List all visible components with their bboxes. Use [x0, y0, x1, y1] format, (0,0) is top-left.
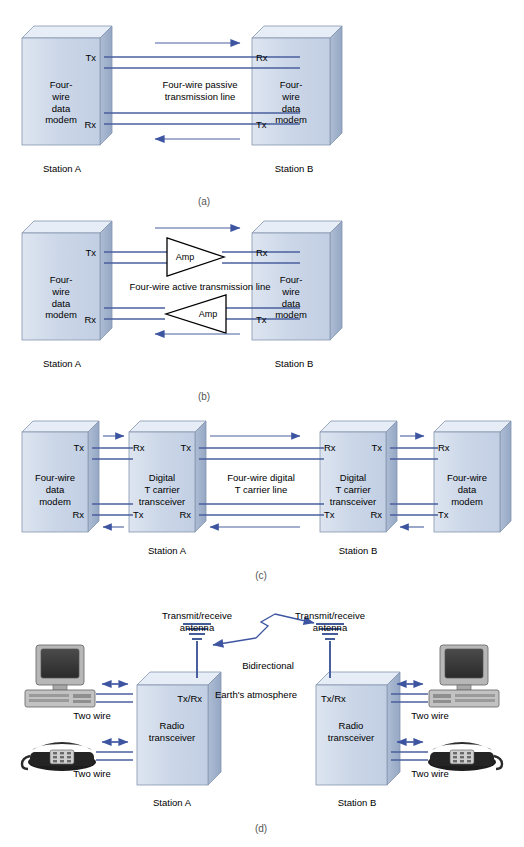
panel-c-box2-port-tx: Tx: [180, 442, 191, 454]
panel-c-box3-label: Digital T carrier transceiver: [330, 472, 376, 507]
panel-b-amplifier-bottom-label: Amp: [199, 309, 218, 321]
panel-d-wire-label-3: Two wire: [411, 710, 448, 722]
panel-a-right-port-rx: Rx: [256, 52, 268, 64]
panel-d-atmosphere-label: Earth's atmosphere: [215, 689, 297, 701]
panel-c-box2-port-tx-b: Tx: [133, 509, 144, 521]
panel-b-caption: (b): [184, 391, 224, 402]
panel-d-antenna-label-left: Transmit/receive antenna: [162, 610, 232, 633]
panel-c-box2-port-rx-b: Rx: [179, 509, 191, 521]
panel-d-wire-label-4: Two wire: [411, 768, 448, 780]
figure-canvas: Four- wire data modem Four- wire data mo…: [0, 0, 524, 847]
panel-c-box3-port-tx: Tx: [371, 442, 382, 454]
panel-c-box1-port-tx: Tx: [73, 442, 84, 454]
panel-c-box3-port-tx-b: Tx: [324, 509, 335, 521]
panel-b-right-port-tx: Tx: [256, 314, 267, 326]
panel-c-box1-label: Four-wire data modem: [35, 472, 75, 507]
panel-c-box2-port-rx: Rx: [133, 442, 145, 454]
panel-a-caption: (a): [184, 196, 224, 207]
panel-c-station-a: Station A: [148, 545, 186, 556]
panel-c-caption: (c): [241, 570, 281, 581]
panel-b-station-a: Station A: [43, 358, 81, 369]
panel-c-box3-port-rx-b: Rx: [370, 509, 382, 521]
panel-d-wires-left-computer: [96, 694, 133, 702]
panel-d-caption: (d): [241, 823, 281, 834]
panel-b-station-b: Station B: [275, 358, 314, 369]
panel-a-left-port-tx: Tx: [85, 52, 96, 64]
panel-a-right-box-label: Four- wire data modem: [275, 79, 307, 126]
panel-d-wire-label-1: Two wire: [73, 710, 110, 722]
panel-b-left-box-label: Four- wire data modem: [45, 274, 77, 321]
panel-c-box4-label: Four-wire data modem: [447, 472, 487, 507]
panel-d-station-a: Station A: [153, 797, 191, 808]
panel-b-left-port-tx: Tx: [85, 247, 96, 259]
bidirectional-arrow-left: [213, 638, 256, 645]
panel-b-amplifier-top-label: Amp: [176, 252, 195, 264]
panel-a-left-box-label: Four- wire data modem: [45, 79, 77, 126]
panel-d-wire-label-2: Two wire: [73, 768, 110, 780]
panel-b-left-port-rx: Rx: [84, 314, 96, 326]
panel-b-center-label: Four-wire active transmission line: [130, 281, 271, 293]
computer-right-icon: [429, 645, 499, 707]
panel-c-station-b: Station B: [339, 545, 378, 556]
panel-d-station-b: Station B: [338, 797, 377, 808]
panel-c-box1-port-rx: Rx: [72, 509, 84, 521]
panel-c-box4-port-rx: Rx: [438, 442, 450, 454]
panel-c-box2-label: Digital T carrier transceiver: [139, 472, 185, 507]
bidirectional-link: [256, 614, 275, 638]
panel-a-left-port-rx: Rx: [84, 119, 96, 131]
panel-a-right-port-tx: Tx: [256, 119, 267, 131]
panel-d-right-box-label: Radio transceiver: [328, 720, 374, 744]
panel-d-wires-left-phone: [96, 752, 133, 760]
telephone-left-icon: [22, 742, 96, 771]
panel-b-right-box-label: Four- wire data modem: [275, 274, 307, 321]
panel-d-left-box-label: Radio transceiver: [149, 720, 195, 744]
panel-c-box3-port-rx: Rx: [324, 442, 336, 454]
computer-left-icon: [25, 645, 95, 707]
telephone-right-icon: [428, 742, 502, 771]
panel-c-center-label: Four-wire digital T carrier line: [227, 472, 295, 495]
panel-d-antenna-label-right: Transmit/receive antenna: [295, 610, 365, 633]
panel-b-right-port-rx: Rx: [256, 247, 268, 259]
panel-d-link-label: Bidirectional: [242, 660, 294, 672]
panel-a-center-label: Four-wire passive transmission line: [163, 79, 238, 102]
panel-a-station-a: Station A: [43, 163, 81, 174]
panel-d-left-port: Tx/Rx: [177, 693, 202, 705]
panel-d-right-port: Tx/Rx: [321, 693, 346, 705]
panel-c-box4-port-tx: Tx: [438, 509, 449, 521]
panel-a-station-b: Station B: [275, 163, 314, 174]
